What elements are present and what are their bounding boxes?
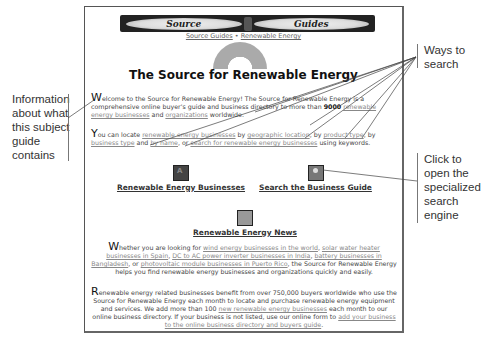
callout-line: Click to bbox=[424, 152, 481, 166]
businesses-link-label[interactable]: Renewable Energy Businesses bbox=[117, 183, 245, 192]
browser-page-frame: Source Guides Source Guides • Renewable … bbox=[84, 6, 404, 333]
search-guide-link-label[interactable]: Search the Business Guide bbox=[259, 183, 372, 192]
callout-line: engine bbox=[424, 208, 481, 222]
callout-line: open the bbox=[424, 166, 481, 180]
nav-separator-icon bbox=[244, 17, 252, 31]
callout-line: contains bbox=[12, 148, 70, 162]
benefit-paragraph: Renewable energy related businesses bene… bbox=[91, 288, 397, 329]
callout-guide-info: Information about what this subject guid… bbox=[12, 92, 70, 162]
callout-bracket bbox=[417, 153, 418, 223]
link-organizations[interactable]: organizations bbox=[165, 111, 207, 118]
ways-paragraph: You can locate renewable energy business… bbox=[91, 130, 397, 147]
text: , or bbox=[178, 139, 190, 146]
breadcrumb-renewable-energy[interactable]: Renewable Energy bbox=[241, 32, 301, 40]
text: hether you are looking for bbox=[119, 244, 203, 251]
link-new-businesses[interactable]: new renewable energy businesses bbox=[219, 305, 327, 312]
callout-line: search bbox=[424, 194, 481, 208]
text: , by bbox=[310, 131, 324, 138]
callout-line: Information bbox=[12, 92, 70, 106]
text: and bbox=[150, 111, 166, 118]
news-icon bbox=[237, 210, 253, 226]
text: ou can locate bbox=[98, 131, 142, 138]
callout-bracket bbox=[417, 44, 418, 68]
search-icon bbox=[308, 165, 324, 181]
business-count: 9000 bbox=[324, 103, 342, 110]
callout-bracket bbox=[68, 94, 69, 161]
intro-paragraph: Welcome to the Source for Renewable Ener… bbox=[91, 94, 397, 119]
link-by-name[interactable]: by name bbox=[150, 139, 178, 146]
callout-line: search bbox=[424, 57, 465, 71]
breadcrumb: Source Guides • Renewable Energy bbox=[85, 32, 402, 40]
search-guide-icon-link[interactable]: Search the Business Guide bbox=[243, 165, 388, 192]
text: and bbox=[135, 139, 151, 146]
callout-line: Ways to bbox=[424, 43, 465, 57]
callout-line: about what bbox=[12, 106, 70, 120]
text: worldwide. bbox=[208, 111, 244, 118]
link-business-type[interactable]: business type bbox=[91, 139, 135, 146]
nav-tab-source[interactable]: Source bbox=[126, 18, 242, 30]
news-icon-link[interactable]: Renewable Energy News bbox=[175, 210, 315, 237]
text: . bbox=[321, 321, 323, 328]
callout-line: specialized bbox=[424, 180, 481, 194]
link-geographic-location[interactable]: geographic location bbox=[247, 131, 309, 138]
link-keyword-search[interactable]: search for renewable energy businesses bbox=[190, 139, 317, 146]
callout-ways-to-search: Ways to search bbox=[424, 43, 465, 71]
link-photovoltaic[interactable]: photovoltaic module businesses in Puerto… bbox=[141, 260, 288, 267]
site-navbar: Source Guides bbox=[120, 15, 375, 32]
whether-paragraph: Whether you are looking for wind energy … bbox=[91, 243, 397, 276]
text: , or bbox=[128, 260, 140, 267]
text: using keywords. bbox=[317, 139, 370, 146]
news-link-label[interactable]: Renewable Energy News bbox=[193, 228, 297, 237]
callout-search-engine: Click to open the specialized search eng… bbox=[424, 152, 481, 222]
link-power-inverter[interactable]: DC to AC power inverter businesses in In… bbox=[172, 252, 310, 259]
text: , by bbox=[364, 131, 376, 138]
page-title: The Source for Renewable Energy bbox=[85, 68, 402, 82]
link-businesses[interactable]: renewable energy businesses bbox=[142, 131, 235, 138]
businesses-icon bbox=[173, 165, 189, 181]
businesses-icon-link[interactable]: Renewable Energy Businesses bbox=[111, 165, 251, 192]
breadcrumb-source-guides[interactable]: Source Guides bbox=[186, 32, 233, 40]
logo-arc-icon bbox=[213, 42, 267, 69]
text: by bbox=[236, 131, 248, 138]
link-wind-energy[interactable]: wind energy businesses in the world bbox=[203, 244, 318, 251]
breadcrumb-separator: • bbox=[233, 32, 241, 40]
nav-tab-guides[interactable]: Guides bbox=[254, 18, 370, 30]
link-product-type[interactable]: product type bbox=[323, 131, 363, 138]
callout-line: guide bbox=[12, 134, 70, 148]
callout-line: this subject bbox=[12, 120, 70, 134]
